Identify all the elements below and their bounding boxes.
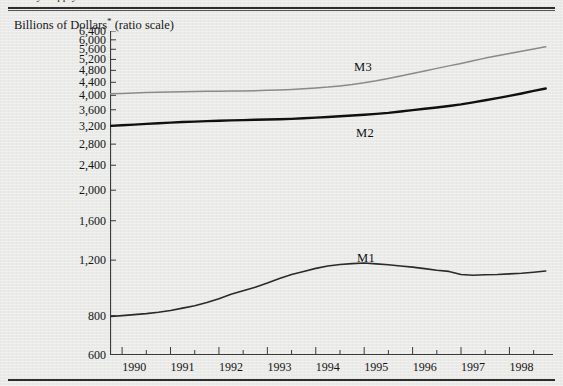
series-line-m3 <box>110 47 546 94</box>
plot-area <box>110 31 553 355</box>
y-tick-label: 1,200 <box>6 254 106 266</box>
y-tick-label: 2,800 <box>6 138 106 150</box>
x-axis-tick-labels: 199019911992199319941995199619971998 <box>0 360 563 380</box>
series-line-m1 <box>110 263 546 316</box>
series-label-m1: M1 <box>357 251 375 266</box>
series-line-m2 <box>110 88 546 125</box>
y-tick-label: 3,200 <box>6 120 106 132</box>
series-label-m3: M3 <box>354 60 372 75</box>
chart-svg <box>110 31 553 355</box>
y-tick-label: 3,600 <box>6 104 106 116</box>
y-tick-label: 4,000 <box>6 89 106 101</box>
page-background: Money Supply Growth in the United States… <box>0 0 563 386</box>
y-tick-label: 2,400 <box>6 159 106 171</box>
y-tick-label: 1,600 <box>6 215 106 227</box>
series-label-m2: M2 <box>356 126 374 141</box>
bottom-rule <box>8 379 555 381</box>
y-tick-label: 800 <box>6 310 106 322</box>
y-tick-label: 4,400 <box>6 76 106 88</box>
y-axis-tick-labels: 6,4006,0005,6005,2004,8004,4004,0003,600… <box>0 0 106 386</box>
y-tick-label: 2,000 <box>6 184 106 196</box>
x-tick-label: 1998 <box>492 360 552 375</box>
